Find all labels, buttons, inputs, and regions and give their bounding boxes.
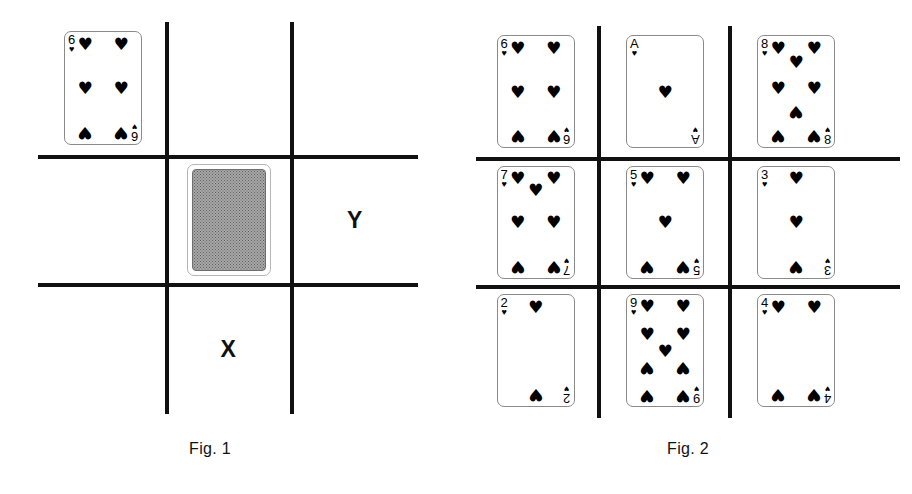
heart-pip: ♥ (546, 170, 561, 187)
heart-pip: ♥ (510, 83, 525, 100)
heart-pip: ♥ (77, 124, 92, 141)
card-pip-area: ♥♥ (506, 301, 566, 400)
fig2-grid-line-vertical-1 (597, 26, 601, 418)
heart-pip: ♥ (546, 257, 561, 274)
heart-pip: ♥ (546, 127, 561, 144)
heart-pip: ♥ (113, 36, 128, 53)
cell-label-x: X (221, 336, 237, 363)
cell-label-y: Y (347, 207, 363, 234)
card-pip-area: ♥♥♥♥♥♥ (73, 38, 133, 138)
playing-card-6-of-hearts[interactable]: 6 ♥ 6 ♥ ♥♥♥♥♥♥ (64, 31, 142, 145)
heart-pip: ♥ (639, 359, 654, 376)
fig2-grid-line-vertical-2 (728, 26, 732, 418)
heart-pip: ♥ (770, 127, 785, 144)
figure-2-caption: Fig. 2 (628, 440, 748, 458)
fig1-cell-r0c0[interactable]: 6 ♥ 6 ♥ ♥♥♥♥♥♥ (42, 22, 164, 154)
heart-pip: ♥ (788, 103, 803, 120)
heart-pip: ♥ (806, 127, 821, 144)
heart-pip: ♥ (528, 386, 543, 403)
card-pip-area: ♥♥♥♥♥♥ (506, 42, 566, 141)
heart-pip: ♥ (657, 83, 672, 100)
playing-card-4-of-hearts[interactable]: 4♥4♥♥♥♥♥ (757, 294, 835, 407)
heart-pip: ♥ (657, 214, 672, 231)
fig2-cell-r1c0[interactable]: 7♥7♥♥♥♥♥♥♥♥ (474, 159, 597, 285)
card-pip-area: ♥♥♥ (766, 173, 826, 272)
fig2-cell-r0c2[interactable]: 8♥8♥♥♥♥♥♥♥♥♥ (733, 26, 859, 157)
heart-pip: ♥ (770, 298, 785, 315)
playing-card-2-of-hearts[interactable]: 2♥2♥♥♥ (497, 294, 575, 407)
playing-card-8-of-hearts[interactable]: 8♥8♥♥♥♥♥♥♥♥♥ (757, 35, 835, 148)
playing-card-face-down[interactable] (187, 164, 271, 276)
heart-pip: ♥ (546, 214, 561, 231)
heart-pip: ♥ (788, 170, 803, 187)
fig2-cell-r2c2[interactable]: 4♥4♥♥♥♥♥ (733, 287, 859, 414)
heart-pip: ♥ (639, 387, 654, 404)
heart-pip: ♥ (639, 325, 654, 342)
heart-pip: ♥ (675, 257, 690, 274)
fig1-cell-r1c2[interactable]: Y (292, 157, 418, 283)
heart-pip: ♥ (788, 53, 803, 70)
playing-card-6-of-hearts[interactable]: 6♥6♥♥♥♥♥♥♥ (497, 35, 575, 148)
heart-pip: ♥ (770, 79, 785, 96)
card-pip-area: ♥♥♥♥ (766, 301, 826, 400)
heart-pip: ♥ (510, 39, 525, 56)
fig1-cell-r1c1[interactable] (167, 157, 290, 283)
heart-pip: ♥ (510, 257, 525, 274)
heart-pip: ♥ (788, 257, 803, 274)
card-pip-area: ♥♥♥♥♥♥♥ (506, 173, 566, 272)
heart-pip: ♥ (675, 170, 690, 187)
playing-card-5-of-hearts[interactable]: 5♥5♥♥♥♥♥♥ (626, 166, 704, 279)
playing-card-3-of-hearts[interactable]: 3♥3♥♥♥♥ (757, 166, 835, 279)
heart-pip: ♥ (675, 387, 690, 404)
heart-pip: ♥ (806, 386, 821, 403)
heart-pip: ♥ (77, 36, 92, 53)
heart-pip: ♥ (510, 214, 525, 231)
card-pip-area: ♥ (635, 42, 695, 141)
card-pip-area: ♥♥♥♥♥♥♥♥♥ (635, 301, 695, 400)
playing-card-A-of-hearts[interactable]: A♥A♥♥ (626, 35, 704, 148)
heart-pip: ♥ (675, 359, 690, 376)
figure-1: 6 ♥ 6 ♥ ♥♥♥♥♥♥ Y X Fig. 1 (0, 0, 420, 494)
heart-pip: ♥ (113, 80, 128, 97)
heart-pip: ♥ (657, 342, 672, 359)
heart-pip: ♥ (675, 297, 690, 314)
fig2-cell-r2c0[interactable]: 2♥2♥♥♥ (474, 287, 597, 414)
heart-pip: ♥ (788, 214, 803, 231)
card-back-pattern (192, 169, 266, 271)
fig2-cell-r0c0[interactable]: 6♥6♥♥♥♥♥♥♥ (474, 26, 597, 157)
heart-pip: ♥ (675, 325, 690, 342)
fig2-cell-r2c1[interactable]: 9♥9♥♥♥♥♥♥♥♥♥♥ (602, 287, 728, 414)
heart-pip: ♥ (639, 170, 654, 187)
heart-pip: ♥ (77, 80, 92, 97)
playing-card-9-of-hearts[interactable]: 9♥9♥♥♥♥♥♥♥♥♥♥ (626, 294, 704, 407)
heart-pip: ♥ (510, 127, 525, 144)
heart-pip: ♥ (546, 83, 561, 100)
heart-pip: ♥ (806, 79, 821, 96)
heart-pip: ♥ (528, 298, 543, 315)
heart-pip: ♥ (770, 386, 785, 403)
playing-card-7-of-hearts[interactable]: 7♥7♥♥♥♥♥♥♥♥ (497, 166, 575, 279)
heart-pip: ♥ (639, 297, 654, 314)
heart-pip: ♥ (528, 182, 543, 199)
card-pip-area: ♥♥♥♥♥♥♥♥ (766, 42, 826, 141)
fig2-cell-r0c1[interactable]: A♥A♥♥ (602, 26, 728, 157)
figure-1-caption: Fig. 1 (150, 440, 270, 458)
heart-pip: ♥ (546, 39, 561, 56)
fig2-cell-r1c2[interactable]: 3♥3♥♥♥♥ (733, 159, 859, 285)
heart-pip: ♥ (770, 39, 785, 56)
heart-pip: ♥ (113, 124, 128, 141)
fig1-cell-r2c1[interactable]: X (167, 285, 290, 414)
figure-2: 6♥6♥♥♥♥♥♥♥A♥A♥♥8♥8♥♥♥♥♥♥♥♥♥7♥7♥♥♥♥♥♥♥♥5♥… (468, 0, 912, 494)
card-pip-area: ♥♥♥♥♥ (635, 173, 695, 272)
fig2-cell-r1c1[interactable]: 5♥5♥♥♥♥♥♥ (602, 159, 728, 285)
heart-pip: ♥ (510, 170, 525, 187)
heart-pip: ♥ (806, 298, 821, 315)
heart-pip: ♥ (639, 257, 654, 274)
heart-pip: ♥ (806, 39, 821, 56)
